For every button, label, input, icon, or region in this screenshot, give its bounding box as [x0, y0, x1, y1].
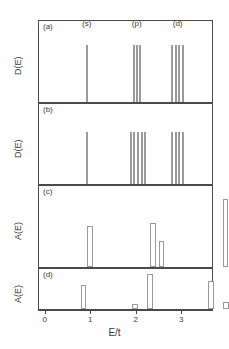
x-tick-label: 1: [88, 316, 92, 324]
bar: [208, 281, 214, 309]
x-tick: [90, 310, 91, 314]
x-tick: [45, 310, 46, 314]
bar: [171, 132, 173, 184]
bar: [147, 274, 153, 309]
panel-b: (b): [38, 103, 213, 186]
bar: [133, 45, 135, 102]
bar: [223, 199, 228, 267]
x-axis-title: E/t: [0, 328, 229, 338]
plot-area-d: [39, 269, 212, 310]
group-label: (d): [173, 20, 183, 28]
bar: [144, 132, 146, 184]
ylabel-panel-b: D(E): [14, 139, 23, 158]
group-label: (s): [82, 20, 91, 28]
panel-d: (d): [38, 268, 213, 311]
bar: [139, 45, 141, 102]
bar: [87, 226, 92, 267]
x-tick: [181, 310, 182, 314]
x-axis-title-text: E/t: [108, 328, 120, 338]
group-label: (p): [132, 20, 142, 28]
x-tick-label: 3: [179, 316, 183, 324]
bar: [130, 132, 132, 184]
bar: [132, 304, 138, 309]
x-tick-label: 0: [43, 316, 47, 324]
bar: [86, 132, 88, 184]
bar: [141, 132, 143, 184]
ylabel-panel-d: A(E): [14, 285, 23, 303]
bar: [178, 132, 180, 184]
x-tick-label: 2: [133, 316, 137, 324]
bar: [136, 45, 138, 102]
panel-a: (a) (s)(p)(d): [38, 20, 213, 103]
figure-container: D(E) D(E) A(E) A(E) (a) (s)(p)(d) (b) (c…: [0, 0, 229, 349]
bar: [159, 241, 164, 267]
ylabel-panel-c: A(E): [14, 222, 23, 240]
bar: [223, 302, 229, 309]
bar: [178, 45, 180, 102]
bar: [175, 132, 177, 184]
x-axis: [38, 310, 213, 311]
bar: [171, 45, 173, 102]
bar: [133, 132, 135, 184]
plot-area-c: [39, 186, 212, 267]
bar: [182, 45, 184, 102]
plot-area-b: [39, 104, 212, 185]
bar: [137, 132, 139, 184]
panel-c: (c): [38, 185, 213, 268]
bar: [175, 45, 177, 102]
bar: [182, 132, 184, 184]
bar: [86, 45, 88, 102]
plot-area-a: (s)(p)(d): [39, 21, 212, 102]
bar: [81, 285, 87, 309]
ylabel-panel-a: D(E): [14, 57, 23, 76]
x-tick: [136, 310, 137, 314]
bar: [150, 223, 155, 267]
